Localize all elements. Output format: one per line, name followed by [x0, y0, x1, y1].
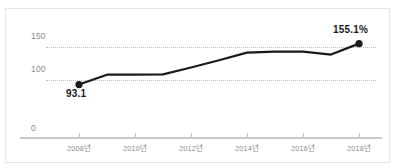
line-chart-figure: 150 100 0 2008년 2010년 2012년 2014년 2016년 … — [0, 0, 395, 168]
plot-area: 150 100 0 2008년 2010년 2012년 2014년 2016년 … — [0, 0, 395, 168]
series-polyline — [79, 44, 359, 85]
data-label-end-value: 155.1% — [333, 24, 368, 35]
data-label-start-value: 93.1 — [66, 88, 86, 99]
series-marker-group — [75, 40, 362, 88]
series-marker — [355, 40, 362, 47]
